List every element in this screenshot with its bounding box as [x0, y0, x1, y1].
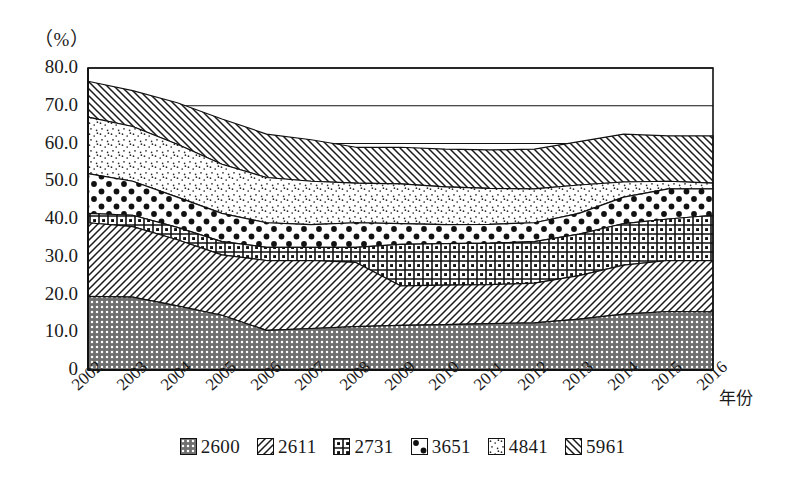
y-axis-tick-label: 40.0 [0, 207, 78, 229]
legend-swatch-icon [411, 438, 428, 455]
legend-swatch-icon [257, 438, 274, 455]
legend-item-2731[interactable]: 2731 [333, 437, 393, 456]
legend-item-3651[interactable]: 3651 [411, 437, 471, 456]
y-axis-tick-label: 70.0 [0, 94, 78, 116]
legend-swatch-icon [565, 438, 582, 455]
legend-swatch-icon [488, 438, 505, 455]
x-axis-title: 年份 [719, 384, 753, 409]
legend-label: 2731 [354, 437, 393, 456]
legend-item-5961[interactable]: 5961 [565, 437, 625, 456]
chart-legend: 260026112731365148415961 [0, 437, 805, 456]
legend-label: 5961 [586, 437, 625, 456]
legend-label: 3651 [432, 437, 471, 456]
legend-swatch-icon [180, 438, 197, 455]
chart-figure: 010.020.030.040.050.060.070.080.0（%）2002… [0, 0, 805, 484]
y-axis-tick-label: 20.0 [0, 283, 78, 305]
stacked-area-chart [0, 0, 805, 484]
y-axis-tick-label: 60.0 [0, 132, 78, 154]
y-axis-tick-label: 0 [0, 358, 78, 380]
y-axis-tick-label: 50.0 [0, 169, 78, 191]
legend-item-2600[interactable]: 2600 [180, 437, 240, 456]
legend-label: 2611 [278, 437, 317, 456]
y-axis-unit-label: （%） [34, 24, 89, 51]
legend-label: 4841 [509, 437, 548, 456]
legend-label: 2600 [201, 437, 240, 456]
y-axis-tick-label: 80.0 [0, 56, 78, 78]
y-axis-tick-label: 30.0 [0, 245, 78, 267]
y-axis-tick-label: 10.0 [0, 320, 78, 342]
legend-swatch-icon [333, 438, 350, 455]
legend-item-4841[interactable]: 4841 [488, 437, 548, 456]
legend-item-2611[interactable]: 2611 [257, 437, 317, 456]
